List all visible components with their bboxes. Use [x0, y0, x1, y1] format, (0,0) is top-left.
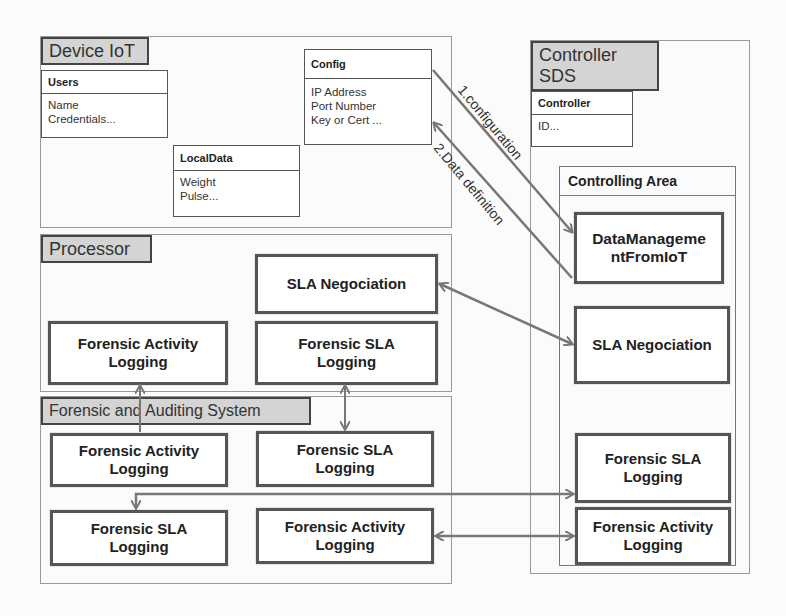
data-management-from-iot: DataManageme ntFromIoT — [574, 212, 724, 284]
config-field: IP Address — [311, 85, 425, 99]
controller-class: Controller ID... — [531, 91, 633, 147]
component-label: Forensic Activity Logging — [51, 335, 225, 371]
forensic-activity-logging-bottom: Forensic Activity Logging — [256, 508, 434, 564]
processor-title: Processor — [41, 235, 152, 263]
localdata-field: Pulse... — [180, 189, 293, 203]
component-label: Forensic Activity Logging — [275, 518, 415, 554]
controller-forensic-sla-logging: Forensic SLA Logging — [575, 433, 731, 503]
dm-label-line2: ntFromIoT — [592, 248, 706, 266]
users-class-title: Users — [42, 71, 167, 94]
controller-field: ID... — [538, 119, 626, 133]
localdata-field: Weight — [180, 175, 293, 189]
localdata-class: LocalData Weight Pulse... — [173, 145, 300, 217]
component-label: Forensic Activity Logging — [581, 518, 726, 554]
forensic-activity-logging-top: Forensic Activity Logging — [50, 433, 228, 487]
controller-sds-title: Controller SDS — [531, 41, 659, 91]
processor-sla-negociation: SLA Negociation — [255, 254, 438, 314]
forensic-sla-logging-top: Forensic SLA Logging — [256, 431, 434, 487]
configuration-label: 1.configuration — [455, 82, 526, 163]
component-label: DataManageme ntFromIoT — [592, 230, 706, 266]
config-class-title: Config — [305, 50, 431, 79]
component-label: SLA Negociation — [287, 275, 406, 293]
controlling-area-title: Controlling Area — [560, 167, 735, 196]
controller-class-title: Controller — [532, 92, 632, 115]
controller-forensic-activity-logging: Forensic Activity Logging — [575, 507, 731, 565]
component-label: Forensic SLA Logging — [287, 335, 407, 371]
controller-sds-title-line2: SDS — [539, 66, 651, 87]
localdata-class-title: LocalData — [174, 146, 299, 171]
component-label: Forensic SLA Logging — [79, 520, 199, 556]
controller-sds-title-line1: Controller — [539, 45, 651, 66]
config-field: Key or Cert ... — [311, 113, 425, 127]
component-label: Forensic SLA Logging — [285, 441, 405, 477]
users-class: Users Name Credentials... — [41, 70, 168, 138]
forensic-sla-logging-bottom: Forensic SLA Logging — [50, 510, 228, 566]
controller-sla-negociation: SLA Negociation — [574, 306, 730, 384]
users-field: Credentials... — [48, 112, 161, 126]
dm-label-line1: DataManageme — [592, 230, 706, 248]
component-label: SLA Negociation — [592, 336, 711, 354]
component-label: Forensic Activity Logging — [69, 442, 209, 478]
config-class: Config IP Address Port Number Key or Cer… — [304, 49, 432, 145]
processor-forensic-sla-logging: Forensic SLA Logging — [255, 321, 438, 385]
users-field: Name — [48, 98, 161, 112]
config-field: Port Number — [311, 99, 425, 113]
forensic-system-title: Forensic and Auditing System — [41, 397, 311, 425]
component-label: Forensic SLA Logging — [593, 450, 713, 486]
processor-forensic-activity-logging: Forensic Activity Logging — [48, 321, 228, 385]
device-iot-title: Device IoT — [41, 37, 149, 65]
